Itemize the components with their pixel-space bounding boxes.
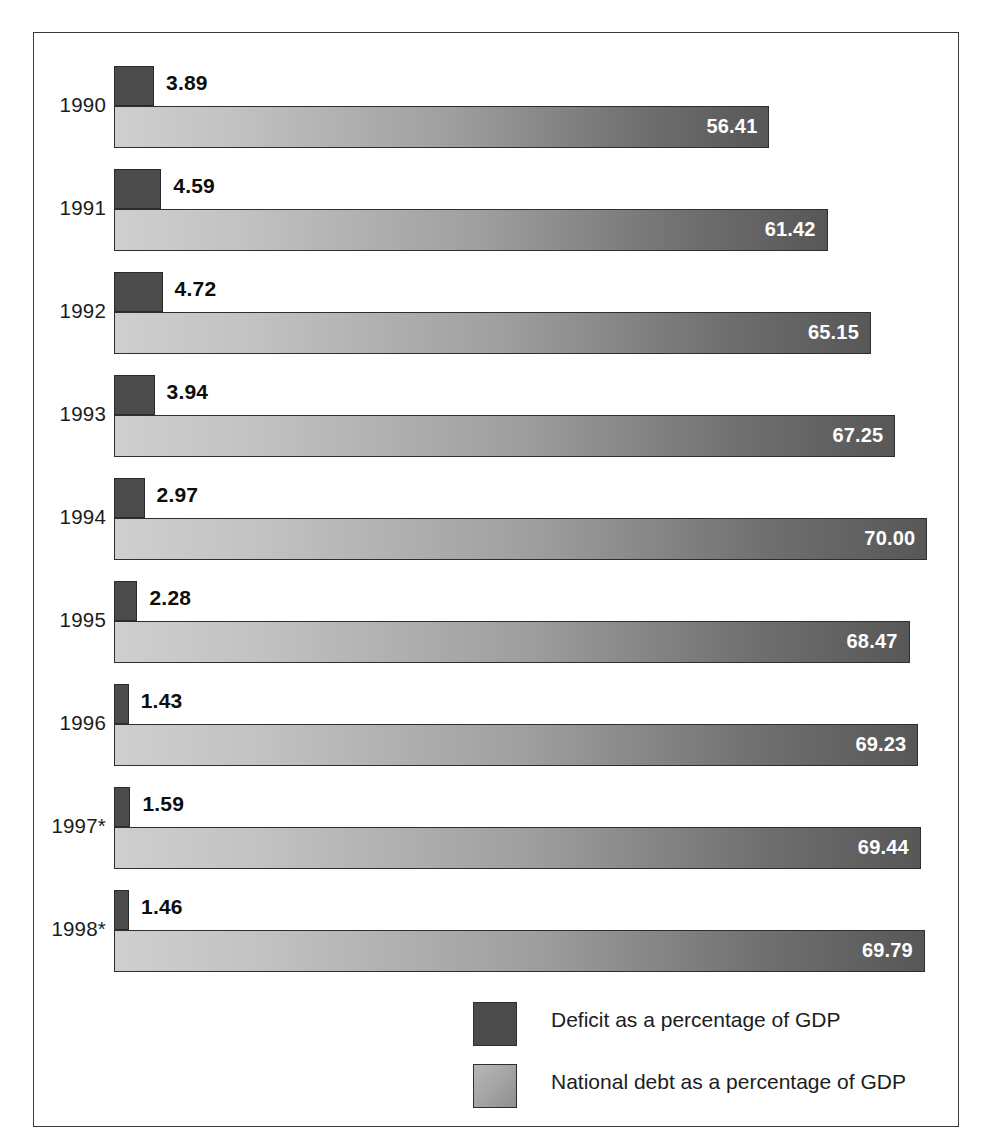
debt-value-label: 67.25 (114, 424, 883, 447)
year-label: 1997* (34, 814, 106, 838)
plot-area: 19903.8956.4119914.5961.4219924.7265.151… (34, 33, 958, 1126)
deficit-bar (114, 478, 145, 518)
legend-swatch-debt (473, 1064, 517, 1108)
debt-value-label: 69.79 (114, 939, 913, 962)
year-label: 1995 (34, 608, 106, 632)
debt-value-label: 61.42 (114, 218, 816, 241)
deficit-bar (114, 375, 155, 415)
deficit-value-label: 2.97 (157, 483, 199, 507)
deficit-value-label: 3.94 (167, 380, 209, 404)
debt-value-label: 70.00 (114, 527, 915, 550)
legend-item: Deficit as a percentage of GDP (473, 996, 943, 1058)
deficit-bar (114, 169, 161, 209)
deficit-value-label: 4.72 (175, 277, 217, 301)
deficit-value-label: 1.59 (142, 792, 184, 816)
deficit-bar (114, 787, 130, 827)
year-label: 1998* (34, 917, 106, 941)
debt-value-label: 56.41 (114, 115, 757, 138)
chart-row: 19952.2868.47 (34, 560, 958, 663)
debt-value-label: 68.47 (114, 630, 898, 653)
chart-row: 1997*1.5969.44 (34, 766, 958, 869)
legend-label: Deficit as a percentage of GDP (551, 1008, 840, 1032)
year-label: 1996 (34, 711, 106, 735)
chart-row: 19942.9770.00 (34, 457, 958, 560)
deficit-bar (114, 684, 129, 724)
legend-item: National debt as a percentage of GDP (473, 1058, 943, 1120)
chart-row: 19903.8956.41 (34, 45, 958, 148)
debt-value-label: 65.15 (114, 321, 859, 344)
deficit-bar (114, 890, 129, 930)
legend-label: National debt as a percentage of GDP (551, 1070, 906, 1094)
chart-row: 19961.4369.23 (34, 663, 958, 766)
debt-value-label: 69.44 (114, 836, 909, 859)
deficit-value-label: 1.43 (141, 689, 183, 713)
year-label: 1991 (34, 196, 106, 220)
year-label: 1994 (34, 505, 106, 529)
chart-row: 19924.7265.15 (34, 251, 958, 354)
deficit-bar (114, 66, 154, 106)
chart-row: 19933.9467.25 (34, 354, 958, 457)
chart-row: 1998*1.4669.79 (34, 869, 958, 972)
chart-row: 19914.5961.42 (34, 148, 958, 251)
year-label: 1990 (34, 93, 106, 117)
deficit-value-label: 1.46 (141, 895, 183, 919)
deficit-bar (114, 581, 137, 621)
year-label: 1993 (34, 402, 106, 426)
deficit-value-label: 4.59 (173, 174, 215, 198)
legend-swatch-deficit (473, 1002, 517, 1046)
chart-frame: 19903.8956.4119914.5961.4219924.7265.151… (33, 32, 959, 1127)
chart-legend: Deficit as a percentage of GDPNational d… (473, 996, 943, 1120)
deficit-value-label: 3.89 (166, 71, 208, 95)
deficit-bar (114, 272, 163, 312)
year-label: 1992 (34, 299, 106, 323)
deficit-value-label: 2.28 (149, 586, 191, 610)
debt-value-label: 69.23 (114, 733, 906, 756)
